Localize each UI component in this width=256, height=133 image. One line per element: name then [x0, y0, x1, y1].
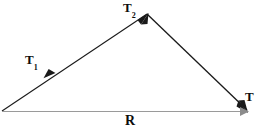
- vector-label-t: T: [245, 90, 254, 107]
- vector-label-t1-subscript: 1: [34, 63, 38, 72]
- vector-label-r: R: [125, 114, 135, 130]
- vector-label-t2-subscript: 2: [132, 11, 136, 20]
- vector-label-t2: T2: [123, 1, 136, 18]
- vector-diagram: T1 T2 T R: [0, 0, 256, 133]
- vector-label-t1: T1: [25, 53, 38, 70]
- vector-line-t: [147, 14, 247, 110]
- vector-line-t1-t2: [2, 14, 147, 111]
- vector-label-t-base: T: [245, 89, 254, 104]
- vector-label-t2-base: T: [123, 0, 132, 15]
- vector-label-r-base: R: [125, 113, 135, 128]
- vector-label-t1-base: T: [25, 52, 34, 67]
